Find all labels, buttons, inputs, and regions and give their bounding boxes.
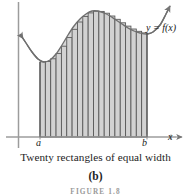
axis-label-b: b [142,137,147,148]
riemann-rectangle [110,16,115,137]
riemann-rectangle [56,54,61,137]
riemann-rectangle [45,61,50,137]
riemann-rectangle [67,38,72,137]
panel-label: (b) [0,170,191,182]
riemann-rectangle [99,11,104,137]
riemann-rectangle [72,29,77,137]
riemann-rectangle [136,31,141,137]
riemann-rectangle [131,29,136,137]
riemann-rectangle [94,11,99,137]
figure-number: FIGURE 1.8 [0,187,191,196]
riemann-rectangle [142,33,147,137]
riemann-rectangle [88,13,93,137]
axis-label-a: a [36,137,41,148]
riemann-rectangle [51,59,56,137]
curve-label: y = f(x) [146,22,176,33]
axis-label-x: x [168,131,172,142]
riemann-rectangle [126,26,131,137]
riemann-rectangle [120,23,125,137]
riemann-rectangle [115,19,120,137]
riemann-rectangle [61,46,66,137]
riemann-rectangle [104,13,109,137]
riemann-rectangle [40,62,45,137]
figure-caption: Twenty rectangles of equal width [0,151,191,163]
riemann-rectangle [83,16,88,137]
figure-container: a b x y = f(x) Twenty rectangles of equa… [0,0,191,196]
riemann-rectangle [77,22,82,137]
